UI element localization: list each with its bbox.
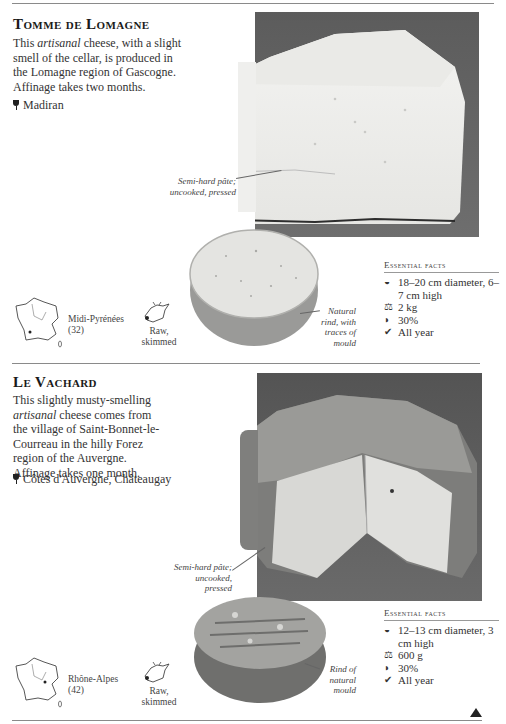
cow-head-icon [143,662,171,684]
fact-weight: ⚖600 g [384,649,499,662]
fact-fat-content: ◗30% [384,662,499,675]
weight-icon: ⚖ [384,649,398,662]
cheese-photo-whole-round [190,593,330,705]
cheese-description: This slightly musty-smelling artisanal c… [13,393,163,480]
cow-head-icon [143,302,171,324]
fat-content-icon: ◗ [384,314,398,327]
fact-season: ✔All year [384,326,499,339]
fact-season: ✔All year [384,674,499,687]
cheese-title: Tomme de Lomagne [13,16,150,33]
cheese-wedge-overhang [238,62,256,212]
region-label: Rhône-Alpes (42) [68,674,118,696]
caption-rind: Rind of natural mould [318,664,356,696]
milk-type: Raw, skimmed [136,686,182,708]
milk-type: Raw, skimmed [136,326,182,348]
fact-fat-content: ◗30% [384,314,499,327]
caption-pate: Semi-hard pâte; uncooked, pressed [166,176,236,197]
wine-pairing: Madiran [13,98,64,113]
cheese-description: This artisanal cheese, with a slight sme… [13,36,181,94]
france-map-icon [12,656,64,708]
cheese-photo-wedge [255,12,479,237]
fact-dimensions: ◒12–13 cm diameter, 3 cm high [384,624,499,649]
cheese-photo-cut-wheel [257,373,482,601]
weight-icon: ⚖ [384,301,398,314]
essential-facts: Essential facts ◒12–13 cm diameter, 3 cm… [384,608,499,687]
wine-pairing: Côtes d'Auvergne, Châteaugay [13,472,171,487]
cheese-wheel-overhang [240,430,258,550]
cheese-cut-wheel-image [257,373,482,601]
essential-facts-heading: Essential facts [384,260,499,273]
cheese-wedge-image [255,12,479,237]
cheese-round-image [186,226,322,348]
bottom-divider [12,720,482,721]
france-map-icon [12,296,64,348]
fact-dimensions: ◒18–20 cm diameter, 6–7 cm high [384,276,499,301]
wine-glass-icon [13,100,19,110]
fact-weight: ⚖2 kg [384,301,499,314]
triangle-up-icon[interactable] [470,708,482,717]
wine-glass-icon [13,474,19,484]
season-check-icon: ✔ [384,674,398,687]
essential-facts-heading: Essential facts [384,608,499,621]
caption-pate: Semi-hard pâte; uncooked, pressed [170,562,232,594]
cheese-whole-round-image [190,593,330,705]
essential-facts: Essential facts ◒18–20 cm diameter, 6–7 … [384,260,499,339]
dimensions-icon: ◒ [384,276,398,301]
top-divider [12,3,494,4]
region-label: Midi-Pyrénées (32) [68,314,124,336]
caption-rind: Natural rind, with traces of mould [316,306,356,348]
cheese-photo-round [186,226,322,348]
fat-content-icon: ◗ [384,662,398,675]
section-divider [12,363,480,364]
season-check-icon: ✔ [384,326,398,339]
dimensions-icon: ◒ [384,624,398,649]
cheese-title: Le Vachard [13,374,97,391]
